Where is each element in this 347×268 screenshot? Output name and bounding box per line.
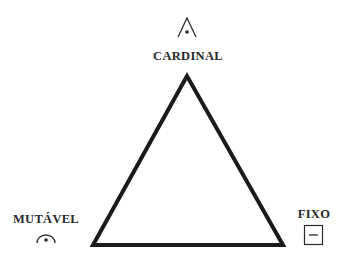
fixed-symbol-icon bbox=[305, 226, 323, 245]
mutable-label: MUTÁVEL bbox=[13, 212, 79, 227]
cardinal-label: CARDINAL bbox=[153, 49, 223, 64]
modality-triangle-diagram bbox=[0, 0, 347, 268]
triangle-shape bbox=[93, 76, 283, 245]
mutable-symbol-icon bbox=[37, 235, 55, 243]
cardinal-symbol-icon bbox=[178, 18, 196, 37]
fixed-label: FIXO bbox=[298, 207, 330, 222]
